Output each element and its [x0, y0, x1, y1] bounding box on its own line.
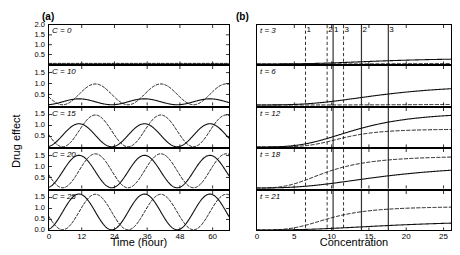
y-tick-label-panel-a: 1.5: [24, 193, 45, 201]
x-tick-label-panel-a: 36: [135, 233, 159, 241]
marker-line-label-4: 2: [362, 26, 372, 34]
subplot-panel-b-2: [256, 107, 452, 148]
x-tick-label-panel-b: 15: [357, 233, 381, 241]
x-tick-label-panel-b: 5: [282, 233, 306, 241]
y-tick-label-panel-a: 0.5: [24, 174, 45, 182]
y-tick-label-panel-a: 1.0: [24, 41, 45, 49]
subplot-panel-b-3: [256, 148, 452, 189]
x-tick-label-panel-a: 60: [201, 233, 225, 241]
marker-line-label-5: 3: [389, 26, 399, 34]
x-tick-label-panel-b: 10: [320, 233, 344, 241]
subplot-label-panel-b-4: t = 21: [260, 193, 280, 201]
y-tick-label-panel-a: 1.0: [24, 80, 45, 88]
marker-line-label-2: 1: [334, 26, 344, 34]
subplot-label-panel-b-0: t = 3: [260, 27, 276, 35]
subplot-panel-b-1: [256, 65, 452, 106]
y-tick-label-panel-a: 1.0: [24, 204, 45, 212]
y-tick-label-panel-a: 1.5: [24, 152, 45, 160]
marker-line-label-0: 1: [307, 26, 317, 34]
y-tick-label-panel-a: 2.0: [24, 21, 45, 29]
x-tick-label-panel-b: 25: [432, 233, 456, 241]
y-tick-label-panel-a: 1.5: [24, 31, 45, 39]
y-tick-label-panel-a: 0.5: [24, 51, 45, 59]
marker-line-label-3: 3: [345, 26, 355, 34]
subplot-label-panel-b-3: t = 18: [260, 151, 280, 159]
y-tick-label-panel-a: 0.5: [24, 215, 45, 223]
subplot-label-panel-a-0: C = 0: [52, 27, 71, 35]
y-tick-label-panel-a: 1.5: [24, 69, 45, 77]
panel-b-letter: (b): [236, 11, 249, 22]
x-tick-label-panel-a: 12: [70, 233, 94, 241]
x-tick-label-panel-a: 48: [168, 233, 192, 241]
x-tick-label-panel-a: 0: [37, 233, 61, 241]
x-tick-label-panel-b: 0: [245, 233, 269, 241]
figure-root: (a) (b) Drug effect Time (hour) Concentr…: [0, 0, 460, 255]
y-tick-label-panel-a: 0.5: [24, 132, 45, 140]
y-axis-label: Drug effect: [10, 114, 22, 168]
subplot-label-panel-a-4: C = 25: [52, 193, 76, 201]
y-tick-label-panel-a: 1.5: [24, 110, 45, 118]
x-tick-label-panel-b: 20: [394, 233, 418, 241]
y-tick-label-panel-a: 1.0: [24, 163, 45, 171]
subplot-label-panel-a-3: C = 20: [52, 151, 76, 159]
y-tick-label-panel-a: 0.5: [24, 91, 45, 99]
subplot-label-panel-a-2: C = 15: [52, 110, 76, 118]
x-tick-label-panel-a: 24: [102, 233, 126, 241]
subplot-panel-a-0: [48, 24, 230, 65]
subplot-label-panel-a-1: C = 10: [52, 68, 76, 76]
subplot-label-panel-b-1: t = 6: [260, 68, 276, 76]
subplot-panel-b-4: [256, 190, 452, 231]
y-tick-label-panel-a: 1.0: [24, 121, 45, 129]
subplot-label-panel-b-2: t = 12: [260, 110, 280, 118]
